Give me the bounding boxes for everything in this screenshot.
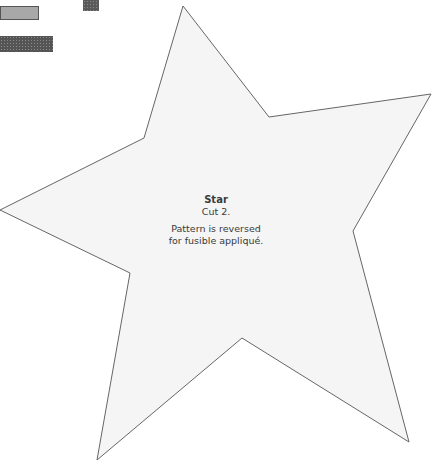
pattern-label: Star Cut 2. Pattern is reversed for fusi… (146, 194, 286, 247)
pattern-note-line-2: for fusible appliqué. (146, 235, 286, 247)
cut-instruction: Cut 2. (146, 206, 286, 218)
pattern-note: Pattern is reversed for fusible appliqué… (146, 223, 286, 247)
pattern-note-line-1: Pattern is reversed (146, 223, 286, 235)
pattern-title: Star (146, 194, 286, 206)
